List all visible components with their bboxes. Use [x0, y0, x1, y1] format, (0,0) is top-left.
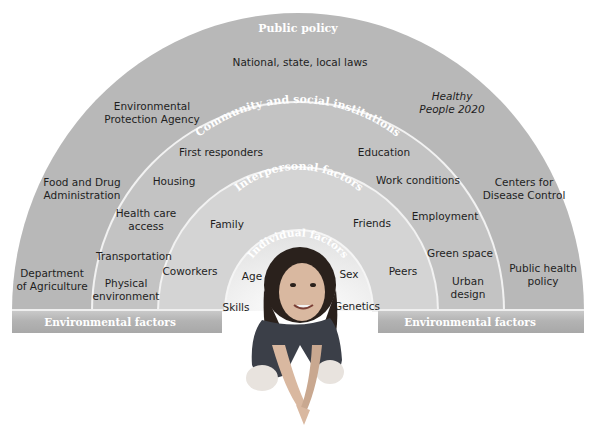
label-fda: Food and DrugAdministration [43, 176, 120, 202]
label-family: Family [210, 218, 244, 231]
environmental-factors-right-label: Environmental factors [404, 316, 536, 328]
label-employment: Employment [412, 210, 479, 223]
label-healthy-people: HealthyPeople 2020 [419, 90, 484, 116]
label-work-conditions: Work conditions [376, 174, 460, 187]
label-peers: Peers [389, 265, 418, 278]
label-coworkers: Coworkers [162, 265, 217, 278]
label-first-responders: First responders [179, 146, 263, 159]
label-transportation: Transportation [96, 250, 172, 263]
label-sex: Sex [339, 268, 358, 281]
label-health-care-access: Health careaccess [116, 207, 177, 233]
label-education: Education [358, 146, 410, 159]
label-epa: EnvironmentalProtection Agency [104, 100, 199, 126]
label-skills: Skills [223, 301, 250, 314]
social-ecological-diagram: Community and social institutions Interp… [0, 0, 595, 430]
label-age: Age [242, 270, 262, 283]
public-policy-title: Public policy [258, 22, 337, 35]
environmental-factors-left-label: Environmental factors [44, 316, 176, 328]
label-urban-design: Urbandesign [451, 275, 486, 301]
label-national-laws: National, state, local laws [233, 56, 368, 69]
label-housing: Housing [153, 175, 196, 188]
label-public-health-policy: Public healthpolicy [509, 262, 577, 288]
label-physical-environment: Physicalenvironment [93, 277, 160, 303]
label-green-space: Green space [427, 247, 493, 260]
label-friends: Friends [353, 217, 391, 230]
label-cdc: Centers forDisease Control [483, 176, 566, 202]
label-genetics: Genetics [334, 300, 380, 313]
label-usda: Departmentof Agriculture [16, 267, 87, 293]
